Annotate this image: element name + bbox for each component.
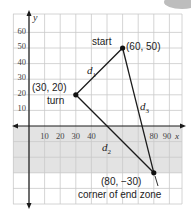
corner-coords: (80, −30) [101, 176, 141, 187]
y-tick: 10 [18, 103, 27, 113]
y-tick: 20 [18, 88, 27, 98]
y-tick: 30 [18, 72, 27, 82]
turn-label: turn [47, 95, 64, 106]
x-tick: 10 [40, 131, 49, 141]
segment-d1 [76, 48, 123, 95]
corner-point [151, 170, 156, 175]
y-tick: 60 [18, 26, 27, 36]
y-tick: 40 [18, 57, 27, 67]
x-tick: 40 [87, 131, 96, 141]
x-tick: 80 [150, 131, 159, 141]
x-axis-label: x [174, 131, 179, 141]
x-tick: 20 [56, 131, 65, 141]
y-axis-down-arrow-icon [27, 203, 32, 209]
x-axis-right-arrow-icon [180, 124, 186, 129]
d2-subscript: 2 [108, 148, 112, 156]
corner-label: corner of end zone [78, 189, 162, 200]
d3-subscript: 3 [146, 107, 150, 115]
turn-point [73, 92, 78, 97]
d3-label: d3 [140, 100, 150, 115]
start-coords: (60, 50) [126, 41, 160, 52]
y-axis-up-arrow-icon [27, 10, 32, 16]
coordinate-diagram: y x 60 50 40 30 20 10 10 20 30 40 80 90 [0, 0, 191, 217]
x-tick: 90 [163, 131, 172, 141]
y-tick: 50 [18, 41, 27, 51]
x-tick: 30 [72, 131, 81, 141]
corner-leader-line [155, 176, 158, 186]
d1-subscript: 1 [93, 71, 97, 79]
y-tick-labels: 60 50 40 30 20 10 [18, 26, 27, 114]
corner-badge-icon [164, 0, 191, 9]
d1-label: d1 [87, 64, 97, 79]
turn-coords: (30, 20) [32, 82, 66, 93]
y-axis-label: y [32, 12, 38, 23]
start-label: start [92, 36, 112, 47]
start-point [120, 45, 125, 50]
